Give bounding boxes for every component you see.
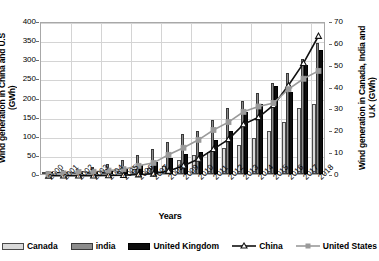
y-axis-left-ticks: 050100150200250300350400	[10, 22, 36, 175]
y-tick-mark-left	[36, 137, 39, 138]
line-series-overlay	[41, 23, 326, 176]
y-tick-label-right: 20	[334, 127, 358, 135]
marker-united-states	[226, 120, 231, 125]
marker-united-states	[256, 104, 261, 109]
y-tick-mark-right	[329, 66, 332, 67]
y-tick-label-left: 300	[12, 56, 36, 64]
line-china	[49, 36, 319, 176]
y-tick-mark-left	[36, 60, 39, 61]
y-tick-label-left: 250	[12, 75, 36, 83]
y-tick-label-right: 70	[334, 18, 358, 26]
y-tick-mark-left	[36, 118, 39, 119]
y-tick-label-right: 50	[334, 62, 358, 70]
marker-united-states	[301, 76, 306, 81]
marker-united-states	[286, 87, 291, 92]
y-tick-mark-left	[36, 22, 39, 23]
y-tick-label-right: 40	[334, 84, 358, 92]
y-tick-label-right: 60	[334, 40, 358, 48]
y-tick-mark-right	[329, 175, 332, 176]
y-tick-mark-right	[329, 153, 332, 154]
legend-swatch-icon	[128, 243, 150, 250]
marker-china	[316, 33, 322, 38]
legend-label: india	[96, 241, 116, 251]
plot-area	[40, 22, 325, 175]
legend-label: Canada	[27, 241, 58, 251]
y-tick-label-left: 150	[12, 114, 36, 122]
legend-label: China	[259, 241, 283, 251]
legend-item-united-states[interactable]: United States	[296, 241, 377, 251]
chart-legend: CanadaindiaUnited KingdomChinaUnited Sta…	[0, 238, 379, 254]
y-axis-right-title: Wind generation in Canada, India and U.K…	[356, 18, 378, 178]
y-tick-mark-left	[36, 156, 39, 157]
marker-united-states	[181, 145, 186, 150]
legend-item-canada[interactable]: Canada	[2, 241, 58, 251]
marker-united-states	[196, 137, 201, 142]
legend-line-marker-icon	[296, 242, 320, 250]
legend-item-united-kingdom[interactable]: United Kingdom	[128, 241, 219, 251]
legend-swatch-icon	[71, 243, 93, 250]
y-tick-mark-left	[36, 41, 39, 42]
marker-united-states	[271, 101, 276, 106]
legend-label: United Kingdom	[153, 241, 219, 251]
y-tick-label-left: 200	[12, 95, 36, 103]
legend-swatch-icon	[2, 243, 24, 250]
marker-united-states	[166, 152, 171, 157]
x-axis-title: Years	[0, 211, 340, 221]
y-tick-label-left: 0	[12, 171, 36, 179]
y-tick-mark-left	[36, 175, 39, 176]
y-tick-mark-right	[329, 88, 332, 89]
marker-united-states	[241, 109, 246, 114]
y-tick-mark-right	[329, 44, 332, 45]
legend-label: United States	[323, 241, 377, 251]
y-tick-mark-right	[329, 131, 332, 132]
y-tick-label-right: 0	[334, 171, 358, 179]
y-tick-mark-right	[329, 22, 332, 23]
line-united-states	[49, 71, 319, 174]
marker-united-states	[211, 128, 216, 133]
marker-china	[241, 122, 247, 127]
y-tick-label-left: 100	[12, 133, 36, 141]
marker-united-states	[316, 68, 321, 73]
y-tick-label-left: 350	[12, 37, 36, 45]
legend-line-marker-icon	[232, 242, 256, 250]
legend-item-china[interactable]: China	[232, 241, 283, 251]
y-tick-label-left: 50	[12, 152, 36, 160]
x-axis-tick-labels: 2000200120022003200420052006200720082009…	[40, 176, 325, 210]
y-tick-label-left: 400	[12, 18, 36, 26]
y-tick-label-right: 10	[334, 149, 358, 157]
y-tick-mark-left	[36, 99, 39, 100]
y-tick-label-right: 30	[334, 105, 358, 113]
legend-item-india[interactable]: india	[71, 241, 116, 251]
y-axis-right-ticks: 010203040506070	[329, 22, 355, 175]
y-tick-mark-left	[36, 79, 39, 80]
y-tick-mark-right	[329, 109, 332, 110]
wind-generation-chart: Wind generation in China and U.S (GWh) W…	[0, 0, 379, 261]
